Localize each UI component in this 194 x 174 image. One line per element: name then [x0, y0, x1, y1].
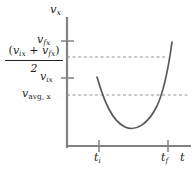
final-time-subscript: f: [165, 156, 168, 165]
plot-canvas: [0, 0, 194, 174]
y-tick-label-initial-velocity: vix: [40, 71, 53, 84]
x-axis-label: t: [180, 152, 185, 164]
x-tick-label-initial-time: ti: [94, 152, 101, 165]
numerator-close-paren: ): [55, 44, 59, 57]
average-velocity-subscript: avg, x: [28, 92, 50, 101]
midpoint-expression-numerator: (vix + vfx): [3, 45, 65, 60]
x-axis-label-variable: t: [180, 150, 185, 164]
numerator-operator: +: [26, 44, 42, 57]
y-tick-label-average-velocity: vavg, x: [22, 88, 51, 101]
initial-velocity-subscript: ix: [46, 75, 53, 84]
velocity-time-figure: vx t vfx (vix + vfx) 2 vix vavg, x ti tf: [0, 0, 194, 174]
y-tick-label-midpoint-expression: (vix + vfx) 2: [3, 45, 65, 75]
numerator-first-subscript: ix: [19, 49, 26, 58]
midpoint-expression-denominator: 2: [3, 61, 65, 76]
y-axis-label-subscript: x: [57, 8, 61, 17]
initial-time-subscript: i: [98, 156, 100, 165]
velocity-curve: [97, 42, 172, 128]
y-axis-label: vx: [50, 4, 61, 17]
x-tick-label-final-time: tf: [161, 152, 168, 165]
